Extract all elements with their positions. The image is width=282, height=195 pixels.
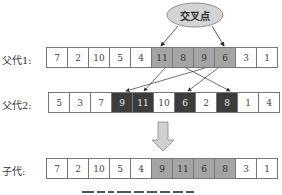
- gene-cell: 9: [112, 93, 133, 112]
- mapping-arrow-11: [144, 68, 165, 91]
- crossover-arrow-right: [212, 26, 224, 46]
- crossover-point-label: 交叉点: [168, 8, 222, 23]
- parent2-chromosome: 5379111062814: [48, 92, 280, 113]
- gene-cell: 5: [110, 48, 131, 67]
- gene-cell: 3: [70, 93, 91, 112]
- gene-cell: 2: [196, 93, 217, 112]
- parent1-label: 父代1:: [2, 52, 44, 67]
- gene-cell: 8: [217, 93, 238, 112]
- gene-cell: 2: [68, 159, 89, 178]
- gene-cell: 3: [236, 48, 257, 67]
- gene-cell: 4: [259, 93, 280, 112]
- gene-cell: 5: [49, 93, 70, 112]
- gene-cell: 10: [89, 48, 110, 67]
- gene-cell: 7: [47, 159, 68, 178]
- down-arrow-icon: [152, 122, 174, 151]
- figure-caption-clipped: [82, 191, 200, 195]
- gene-cell: 6: [175, 93, 196, 112]
- mapping-arrow-6: [188, 68, 218, 91]
- gene-cell: 6: [215, 48, 236, 67]
- gene-cell: 2: [68, 48, 89, 67]
- parent2-label: 父代2:: [2, 97, 44, 112]
- gene-cell: 1: [257, 159, 278, 178]
- mapping-arrow-9: [126, 68, 205, 91]
- gene-cell: 11: [152, 48, 173, 67]
- gene-cell: 3: [236, 159, 257, 178]
- gene-cell: 4: [131, 159, 152, 178]
- gene-cell: 5: [110, 159, 131, 178]
- gene-cell: 11: [173, 159, 194, 178]
- child-label: 子代:: [2, 163, 44, 178]
- child-chromosome: 7210549116831: [46, 158, 278, 179]
- gene-cell: 9: [194, 48, 215, 67]
- gene-cell: 9: [152, 159, 173, 178]
- parent1-chromosome: 7210541189631: [46, 47, 278, 68]
- gene-cell: 10: [154, 93, 175, 112]
- gene-cell: 10: [89, 159, 110, 178]
- gene-cell: 4: [131, 48, 152, 67]
- gene-cell: 8: [173, 48, 194, 67]
- gene-cell: 1: [257, 48, 278, 67]
- gene-cell: 7: [91, 93, 112, 112]
- crossover-arrow-left: [161, 26, 178, 46]
- gene-cell: 7: [47, 48, 68, 67]
- gene-cell: 1: [238, 93, 259, 112]
- mapping-arrow-8: [186, 68, 230, 91]
- gene-cell: 8: [215, 159, 236, 178]
- gene-cell: 6: [194, 159, 215, 178]
- gene-cell: 11: [133, 93, 154, 112]
